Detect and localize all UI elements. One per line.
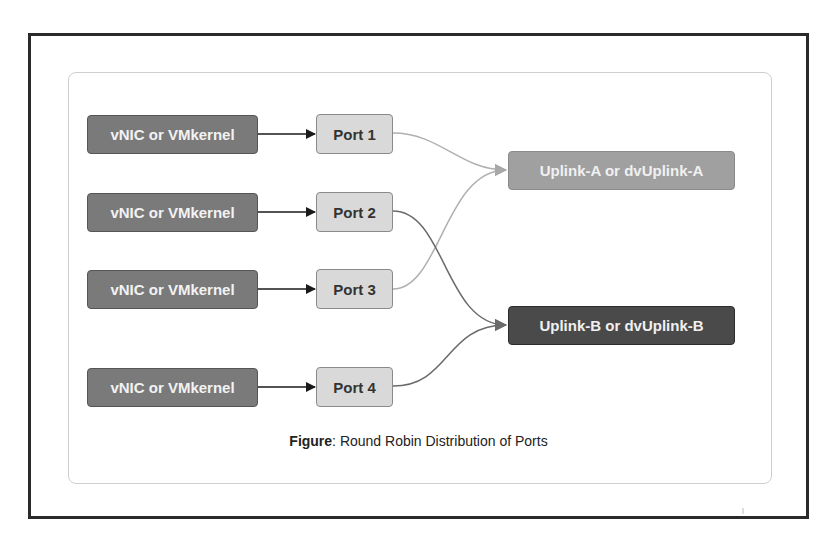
uplink-b-label: Uplink-B or dvUplink-B <box>539 317 703 334</box>
figure-caption: Figure: Round Robin Distribution of Port… <box>0 433 837 449</box>
vnic-box-4: vNIC or VMkernel <box>87 368 258 407</box>
port-box-1: Port 1 <box>316 114 393 154</box>
vnic-label: vNIC or VMkernel <box>110 126 234 143</box>
vnic-label: vNIC or VMkernel <box>110 379 234 396</box>
vnic-box-1: vNIC or VMkernel <box>87 115 258 154</box>
port-label: Port 1 <box>333 126 376 143</box>
link-port4-uplinkB <box>393 325 506 386</box>
port-box-4: Port 4 <box>316 367 393 407</box>
caption-label: Figure <box>289 433 332 449</box>
uplink-b-box: Uplink-B or dvUplink-B <box>508 306 735 345</box>
port-box-3: Port 3 <box>316 269 393 309</box>
caption-text: : Round Robin Distribution of Ports <box>332 433 548 449</box>
link-port1-uplinkA <box>393 133 506 170</box>
scan-artifact <box>742 508 744 514</box>
uplink-a-box: Uplink-A or dvUplink-A <box>508 151 735 190</box>
port-box-2: Port 2 <box>316 192 393 232</box>
uplink-a-label: Uplink-A or dvUplink-A <box>540 162 704 179</box>
vnic-box-2: vNIC or VMkernel <box>87 193 258 232</box>
port-label: Port 4 <box>333 379 376 396</box>
vnic-label: vNIC or VMkernel <box>110 281 234 298</box>
link-port2-uplinkB <box>393 211 506 325</box>
link-port3-uplinkA <box>393 170 506 289</box>
vnic-box-3: vNIC or VMkernel <box>87 270 258 309</box>
port-label: Port 2 <box>333 204 376 221</box>
port-label: Port 3 <box>333 281 376 298</box>
vnic-label: vNIC or VMkernel <box>110 204 234 221</box>
